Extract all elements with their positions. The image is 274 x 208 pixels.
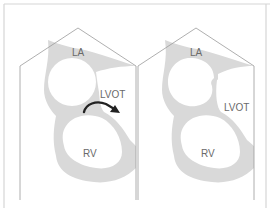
label-la-right: LA [190,47,203,58]
label-la-left: LA [72,47,85,58]
label-lvot-left: LVOT [100,89,125,100]
label-rv-right: RV [201,148,215,159]
echo-diagram: LA LVOT RV LA LVOT RV [0,0,274,208]
diagram-frame: LA LVOT RV LA LVOT RV [0,0,274,208]
label-lvot-right: LVOT [224,102,249,113]
label-rv-left: RV [83,148,97,159]
lv-cavity-left [48,58,96,106]
lv-cavity-right [168,58,214,106]
panel-right: LA LVOT RV [138,28,254,200]
panel-left: LA LVOT RV [20,28,136,200]
